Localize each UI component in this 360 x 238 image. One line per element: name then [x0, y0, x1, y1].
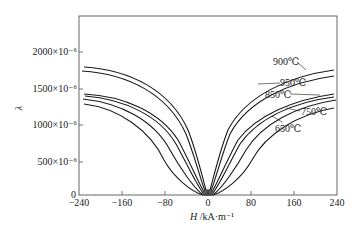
y-tick-label: 2000×10⁻⁶ [33, 46, 78, 57]
label-650: 650℃ [275, 123, 301, 134]
label-900: 900℃ [273, 56, 299, 67]
leader-850 [290, 94, 320, 95]
x-axis-label: H /kA·m⁻¹ [189, 211, 234, 222]
label-950: 950℃ [280, 77, 306, 88]
curve-650 [84, 104, 334, 195]
x-tick-label: −240 [69, 197, 90, 208]
leader-650 [272, 116, 282, 122]
curve-750 [83, 99, 336, 194]
y-tick-label: 1000×10⁻⁶ [33, 119, 78, 130]
x-tick-label: 80 [246, 197, 256, 208]
y-axis: 0 500×10⁻⁶ 1000×10⁻⁶ 1500×10⁻⁶ 2000×10⁻⁶… [13, 46, 83, 200]
x-tick-label: 240 [330, 197, 345, 208]
y-axis-label: λ [13, 105, 24, 111]
annotations: 900℃ 950℃ 850℃ 750℃ 650℃ [258, 56, 327, 134]
x-tick-label: −160 [112, 197, 133, 208]
x-tick-label: 0 [206, 197, 211, 208]
label-750: 750℃ [301, 106, 327, 117]
x-axis-label-unit: /kA·m⁻¹ [197, 211, 234, 222]
x-axis: −240 −160 −80 0 80 160 240 H /kA·m⁻¹ [69, 191, 345, 222]
chart: 0 500×10⁻⁶ 1000×10⁻⁶ 1500×10⁻⁶ 2000×10⁻⁶… [0, 0, 360, 238]
label-850: 850℃ [265, 89, 291, 100]
y-tick-label: 500×10⁻⁶ [38, 156, 78, 167]
plot-frame [79, 16, 337, 195]
x-tick-label: 160 [287, 197, 302, 208]
y-tick-label: 1500×10⁻⁶ [33, 83, 78, 94]
leader-950 [258, 83, 280, 84]
x-tick-label: −80 [157, 197, 173, 208]
